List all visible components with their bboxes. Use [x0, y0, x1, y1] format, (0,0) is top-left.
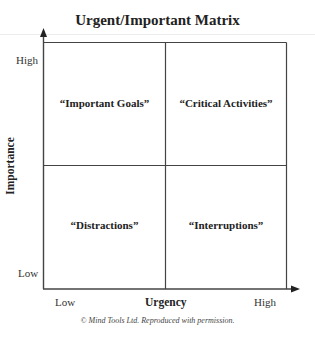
quadrant-interruptions: “Interruptions” — [166, 219, 286, 231]
x-tick-high: High — [254, 296, 276, 308]
copyright-credit: © Mind Tools Ltd. Reproduced with permis… — [0, 316, 315, 325]
x-axis-label: Urgency — [145, 296, 187, 308]
x-tick-low: Low — [55, 296, 75, 308]
y-axis-arrow-icon — [40, 28, 47, 37]
x-axis-arrow-icon — [291, 286, 300, 293]
quadrant-critical-activities: “Critical Activities” — [166, 97, 286, 109]
y-tick-high: High — [16, 54, 38, 66]
matrix-frame — [0, 0, 315, 341]
quadrant-important-goals: “Important Goals” — [44, 97, 165, 109]
y-axis-label: Importance — [4, 137, 16, 195]
y-tick-low: Low — [18, 267, 38, 279]
quadrant-distractions: “Distractions” — [44, 219, 165, 231]
